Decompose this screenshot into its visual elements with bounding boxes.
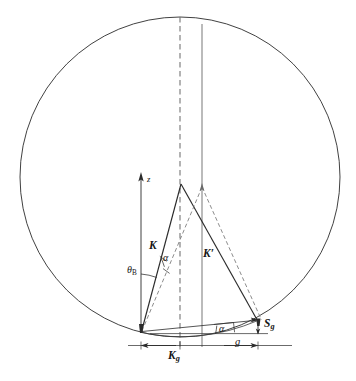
kg-subscript: g [176,354,180,363]
diagram-canvas [0,0,356,381]
kg-label: Kg [168,350,180,364]
k-incident-dashed-vector-line [142,187,202,331]
theta-bragg-angle-arc [141,274,157,278]
k-incident-label: K [149,240,157,252]
theta-bragg-label: θB [127,265,137,277]
z-axis-label: z [147,175,150,184]
k-prime-symbol: K [203,247,211,259]
theta-bragg-subscript: B [132,269,137,277]
k-prime-label: K′ [203,248,214,260]
k-prime-mark: ′ [211,247,214,259]
sg-subscript: g [270,322,274,331]
sg-label: Sg [264,318,275,332]
k-prime-vector-line [181,184,258,322]
alpha-bottom-label: α [219,324,224,334]
figure-root: z K θB α K′ Kg g α Sg [0,0,356,381]
kg-symbol: K [168,349,176,361]
lower-chord-arc [142,321,259,337]
alpha-top-label: α [163,253,168,263]
g-vector-label: g [235,337,240,348]
